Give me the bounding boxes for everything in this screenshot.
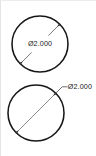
figure-bottom: Ø2.000 bbox=[8, 82, 92, 141]
dimension-label-top: Ø2.000 bbox=[28, 39, 52, 48]
dimension-line-top-upper bbox=[48, 24, 59, 35]
dimension-label-bottom: Ø2.000 bbox=[68, 82, 92, 91]
dimension-line-top-lower bbox=[20, 52, 31, 63]
dimension-line-bottom bbox=[16, 93, 56, 133]
figure-top: Ø2.000 bbox=[12, 16, 68, 72]
technical-drawing: Ø2.000 Ø2.000 bbox=[1, 1, 96, 156]
drawing-canvas: Ø2.000 Ø2.000 bbox=[0, 0, 96, 156]
leader-line-bottom bbox=[56, 87, 62, 93]
